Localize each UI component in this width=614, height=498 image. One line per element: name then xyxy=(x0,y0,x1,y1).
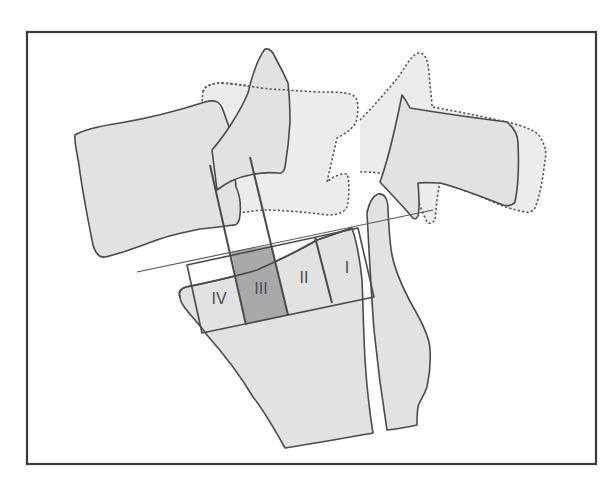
bone-fibula xyxy=(367,194,430,430)
zone-label-II: II xyxy=(300,269,309,286)
bone-right-block xyxy=(380,95,518,219)
zone-label-I: I xyxy=(345,259,349,276)
zone-label-III: III xyxy=(254,280,267,297)
zone-label-IV: IV xyxy=(211,290,226,307)
diagram-figure: IV III II I xyxy=(0,0,614,498)
